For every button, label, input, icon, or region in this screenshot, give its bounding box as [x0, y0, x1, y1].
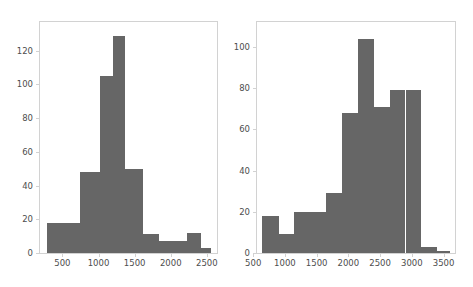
- histogram-figure: 0204060801001205001000150020002500 02040…: [0, 0, 473, 287]
- x-tick-label: 1000: [267, 259, 303, 268]
- y-tick-label: 120: [5, 47, 33, 56]
- x-tick-label: 2000: [330, 259, 366, 268]
- y-tick-mark: [36, 51, 39, 52]
- x-tick-mark: [171, 254, 172, 257]
- y-tick-mark: [36, 253, 39, 254]
- histogram-bar: [159, 241, 173, 253]
- x-tick-label: 1500: [299, 259, 335, 268]
- histogram-bar: [437, 251, 450, 253]
- y-tick-mark: [253, 212, 256, 213]
- histogram-panel-left: 0204060801001205001000150020002500: [0, 0, 236, 287]
- y-tick-label: 40: [222, 167, 250, 176]
- x-tick-mark: [412, 254, 413, 257]
- y-tick-mark: [36, 152, 39, 153]
- plot-area-right: [257, 22, 455, 253]
- histogram-bar: [421, 247, 437, 253]
- histogram-panel-right: 020406080100500100015002000250030003500: [236, 0, 473, 287]
- histogram-bar: [279, 234, 295, 253]
- histogram-bar: [374, 107, 390, 253]
- histogram-bar: [294, 212, 310, 253]
- y-tick-label: 80: [222, 84, 250, 93]
- y-tick-label: 0: [222, 249, 250, 258]
- histogram-bar: [100, 76, 113, 253]
- histogram-bar: [262, 216, 279, 253]
- x-tick-mark: [135, 254, 136, 257]
- y-tick-label: 20: [222, 208, 250, 217]
- histogram-bar: [47, 223, 80, 253]
- y-tick-mark: [36, 219, 39, 220]
- y-tick-mark: [36, 84, 39, 85]
- x-tick-label: 3000: [394, 259, 430, 268]
- histogram-bar: [390, 90, 406, 253]
- x-tick-mark: [380, 254, 381, 257]
- x-tick-label: 1500: [117, 259, 153, 268]
- y-tick-mark: [36, 118, 39, 119]
- histogram-bar: [201, 248, 211, 253]
- x-tick-label: 500: [235, 259, 271, 268]
- histogram-bar: [406, 90, 422, 253]
- y-tick-mark: [253, 88, 256, 89]
- x-tick-label: 2000: [153, 259, 189, 268]
- histogram-bar: [125, 169, 143, 253]
- x-tick-label: 1000: [81, 259, 117, 268]
- x-tick-label: 3500: [426, 259, 462, 268]
- x-tick-mark: [207, 254, 208, 257]
- x-tick-mark: [253, 254, 254, 257]
- y-tick-label: 100: [5, 80, 33, 89]
- x-tick-mark: [99, 254, 100, 257]
- x-tick-label: 500: [44, 259, 80, 268]
- x-tick-label: 2500: [189, 259, 225, 268]
- x-tick-mark: [285, 254, 286, 257]
- x-tick-mark: [444, 254, 445, 257]
- x-tick-mark: [317, 254, 318, 257]
- histogram-bar: [358, 39, 374, 254]
- y-tick-mark: [36, 186, 39, 187]
- histogram-bar: [80, 172, 100, 253]
- x-tick-label: 2500: [362, 259, 398, 268]
- y-tick-label: 0: [5, 249, 33, 258]
- histogram-bar: [326, 193, 342, 253]
- y-tick-mark: [253, 129, 256, 130]
- histogram-bar: [174, 241, 188, 253]
- y-tick-mark: [253, 171, 256, 172]
- histogram-bar: [113, 36, 125, 254]
- histogram-bar: [310, 212, 326, 253]
- x-tick-mark: [62, 254, 63, 257]
- plot-area-left: [40, 22, 217, 253]
- y-tick-label: 100: [222, 43, 250, 52]
- y-tick-label: 60: [222, 125, 250, 134]
- x-tick-mark: [348, 254, 349, 257]
- y-tick-label: 40: [5, 182, 33, 191]
- y-tick-label: 60: [5, 148, 33, 157]
- histogram-bar: [143, 234, 159, 253]
- y-tick-mark: [253, 47, 256, 48]
- histogram-bar: [187, 233, 201, 253]
- y-tick-label: 20: [5, 215, 33, 224]
- y-tick-label: 80: [5, 114, 33, 123]
- histogram-bar: [342, 113, 358, 253]
